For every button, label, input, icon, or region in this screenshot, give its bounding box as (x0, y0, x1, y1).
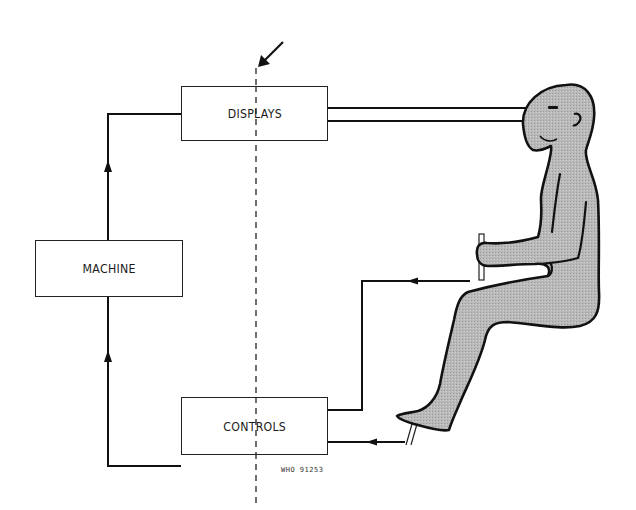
controls-label: CONTROLS (223, 419, 286, 434)
foot-to-controls-link (328, 439, 405, 446)
operator-figure (397, 85, 599, 445)
displays-label: DISPLAYS (227, 106, 281, 121)
diagram-canvas: DISPLAYS MACHINE CONTROLS WHO 91253 (0, 0, 636, 510)
foot-pedal-icon (406, 424, 417, 445)
figure-id: WHO 91253 (281, 466, 323, 474)
controls-block: CONTROLS (181, 397, 328, 455)
machine-label: MACHINE (82, 261, 135, 276)
machine-block: MACHINE (35, 240, 183, 297)
displays-block: DISPLAYS (181, 86, 328, 141)
boundary-pointer-arrow-icon (258, 42, 283, 67)
